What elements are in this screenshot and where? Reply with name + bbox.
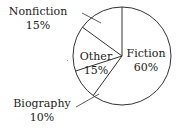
- fiction-percent: 60%: [134, 61, 158, 74]
- fiction-label: Fiction: [127, 47, 166, 60]
- biography-leader-line: [76, 94, 99, 107]
- other-label: Other: [80, 50, 113, 63]
- stray-mark: [67, 60, 68, 61]
- nonfiction-leader-line: [82, 13, 101, 23]
- pie-annotations: Nonfiction 15% Other 15% Fiction 60% Bio…: [0, 0, 177, 130]
- nonfiction-percent: 15%: [26, 19, 50, 32]
- biography-label: Biography: [13, 97, 71, 110]
- other-percent: 15%: [84, 64, 108, 77]
- nonfiction-label: Nonfiction: [9, 5, 67, 18]
- biography-percent: 10%: [30, 111, 54, 124]
